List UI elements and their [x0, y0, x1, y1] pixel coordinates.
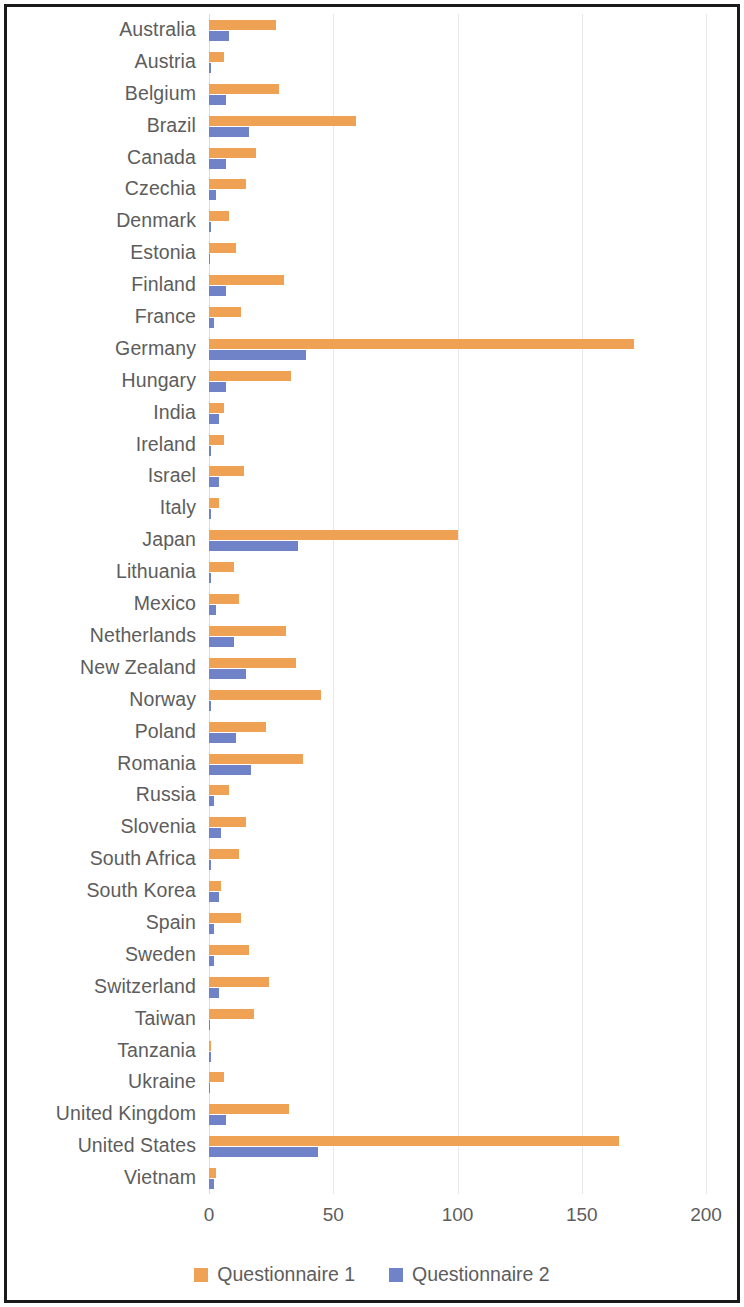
bar-group	[209, 843, 706, 875]
bar-group	[209, 620, 706, 652]
bar[interactable]	[209, 1115, 226, 1125]
bar[interactable]	[209, 977, 269, 987]
bar[interactable]	[209, 849, 239, 859]
bar[interactable]	[209, 403, 224, 413]
bar[interactable]	[209, 477, 219, 487]
bar[interactable]	[209, 190, 216, 200]
bar[interactable]	[209, 116, 356, 126]
bar[interactable]	[209, 913, 241, 923]
x-tick-label: 150	[566, 1204, 598, 1226]
bar[interactable]	[209, 817, 246, 827]
category-label: Lithuania	[116, 556, 196, 588]
legend-item[interactable]: Questionnaire 2	[389, 1263, 550, 1286]
bar[interactable]	[209, 466, 244, 476]
bar[interactable]	[209, 243, 236, 253]
category-label: Denmark	[116, 205, 196, 237]
bar[interactable]	[209, 307, 241, 317]
bar[interactable]	[209, 860, 211, 870]
bar[interactable]	[209, 1020, 210, 1030]
bar-group	[209, 652, 706, 684]
bar-group	[209, 1130, 706, 1162]
bar[interactable]	[209, 1083, 210, 1093]
bar[interactable]	[209, 52, 224, 62]
bar[interactable]	[209, 20, 276, 30]
bar[interactable]	[209, 435, 224, 445]
bar[interactable]	[209, 350, 306, 360]
bar[interactable]	[209, 318, 214, 328]
bar[interactable]	[209, 956, 214, 966]
bar[interactable]	[209, 573, 211, 583]
bar[interactable]	[209, 754, 303, 764]
category-axis-labels: AustraliaAustriaBelgiumBrazilCanadaCzech…	[10, 14, 196, 1194]
bar-group	[209, 875, 706, 907]
bar[interactable]	[209, 626, 286, 636]
bar[interactable]	[209, 371, 291, 381]
category-label: Italy	[160, 492, 196, 524]
category-label: Brazil	[147, 110, 196, 142]
bar[interactable]	[209, 31, 229, 41]
bar[interactable]	[209, 1147, 318, 1157]
bar[interactable]	[209, 382, 226, 392]
category-label: Mexico	[134, 588, 196, 620]
bar[interactable]	[209, 414, 219, 424]
bar[interactable]	[209, 95, 226, 105]
bar[interactable]	[209, 211, 229, 221]
bar[interactable]	[209, 701, 211, 711]
bar[interactable]	[209, 1072, 224, 1082]
bar[interactable]	[209, 1104, 289, 1114]
bar[interactable]	[209, 669, 246, 679]
bar[interactable]	[209, 541, 298, 551]
bar[interactable]	[209, 1041, 211, 1051]
bar[interactable]	[209, 605, 216, 615]
category-label: Hungary	[122, 365, 196, 397]
bar[interactable]	[209, 733, 236, 743]
bar[interactable]	[209, 509, 211, 519]
bar[interactable]	[209, 785, 229, 795]
category-label: Vietnam	[124, 1162, 196, 1194]
bar[interactable]	[209, 275, 284, 285]
category-label: Sweden	[125, 939, 196, 971]
bar[interactable]	[209, 286, 226, 296]
bar[interactable]	[209, 924, 214, 934]
bar[interactable]	[209, 988, 219, 998]
bar[interactable]	[209, 562, 234, 572]
bar[interactable]	[209, 690, 321, 700]
bar[interactable]	[209, 148, 256, 158]
bar[interactable]	[209, 339, 634, 349]
bar[interactable]	[209, 498, 219, 508]
bar-group	[209, 333, 706, 365]
bar[interactable]	[209, 594, 239, 604]
bar[interactable]	[209, 722, 266, 732]
bar-rows	[209, 14, 706, 1194]
category-label: Russia	[136, 779, 196, 811]
bar[interactable]	[209, 1179, 214, 1189]
bar[interactable]	[209, 446, 211, 456]
bar[interactable]	[209, 179, 246, 189]
bar-group	[209, 1066, 706, 1098]
category-label: Tanzania	[117, 1035, 196, 1067]
bar[interactable]	[209, 881, 221, 891]
bar[interactable]	[209, 222, 211, 232]
bar[interactable]	[209, 254, 210, 264]
bar[interactable]	[209, 765, 251, 775]
bar[interactable]	[209, 1052, 211, 1062]
bar[interactable]	[209, 1136, 619, 1146]
bar-group	[209, 46, 706, 78]
bar[interactable]	[209, 1168, 216, 1178]
bar[interactable]	[209, 658, 296, 668]
legend-item[interactable]: Questionnaire 1	[194, 1263, 355, 1286]
bar[interactable]	[209, 892, 219, 902]
bar[interactable]	[209, 1009, 254, 1019]
bar[interactable]	[209, 159, 226, 169]
bar-group	[209, 939, 706, 971]
bar[interactable]	[209, 637, 234, 647]
bar[interactable]	[209, 84, 279, 94]
bar[interactable]	[209, 63, 211, 73]
x-tick-label: 50	[323, 1204, 344, 1226]
bar[interactable]	[209, 796, 214, 806]
bar[interactable]	[209, 530, 458, 540]
bar[interactable]	[209, 828, 221, 838]
bar[interactable]	[209, 127, 249, 137]
category-label: New Zealand	[80, 652, 196, 684]
bar[interactable]	[209, 945, 249, 955]
